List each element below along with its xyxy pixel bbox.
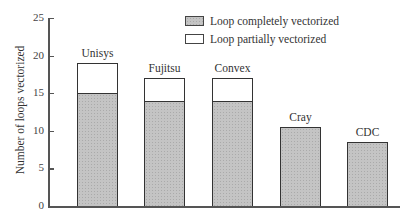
bar-segment-complete <box>347 142 388 206</box>
bar-cdc <box>347 142 388 206</box>
bar-label: Unisys <box>68 47 128 59</box>
bar-segment-partial <box>77 63 118 93</box>
y-axis-label: Number of loops vectorized <box>14 40 26 180</box>
legend-swatch-complete <box>185 16 204 26</box>
bar-label: CDC <box>338 126 398 138</box>
y-tick-label: 5 <box>24 161 44 173</box>
bar-segment-partial <box>212 78 253 101</box>
y-tick <box>48 93 54 94</box>
y-tick <box>48 206 54 207</box>
y-tick <box>48 131 54 132</box>
y-tick-label: 10 <box>24 124 44 136</box>
x-axis <box>48 206 400 208</box>
bar-segment-partial <box>144 78 185 101</box>
legend-swatch-partial <box>185 34 204 44</box>
bar-segment-complete <box>77 93 118 206</box>
y-tick-label: 0 <box>24 199 44 211</box>
y-tick <box>48 18 54 19</box>
legend-item-partial: Loop partially vectorized <box>185 30 339 48</box>
y-tick <box>48 56 54 57</box>
bar-unisys <box>77 63 118 206</box>
legend-label-partial: Loop partially vectorized <box>210 33 326 45</box>
bar-label: Cray <box>271 111 331 123</box>
y-tick-label: 20 <box>24 49 44 61</box>
bar-fujitsu <box>144 78 185 206</box>
bar-cray <box>280 127 321 206</box>
legend-item-complete: Loop completely vectorized <box>185 12 339 30</box>
bar-label: Convex <box>203 62 263 74</box>
y-tick-label: 25 <box>24 11 44 23</box>
bar-segment-complete <box>212 101 253 206</box>
bar-segment-complete <box>144 101 185 206</box>
legend: Loop completely vectorized Loop partiall… <box>185 12 339 48</box>
bar-segment-complete <box>280 127 321 206</box>
y-tick-label: 15 <box>24 86 44 98</box>
legend-label-complete: Loop completely vectorized <box>210 15 339 27</box>
bar-label: Fujitsu <box>135 62 195 74</box>
bar-convex <box>212 78 253 206</box>
y-axis <box>48 18 50 207</box>
y-tick <box>48 168 54 169</box>
stacked-bar-chart: Number of loops vectorized 0510152025 Un… <box>0 0 414 217</box>
